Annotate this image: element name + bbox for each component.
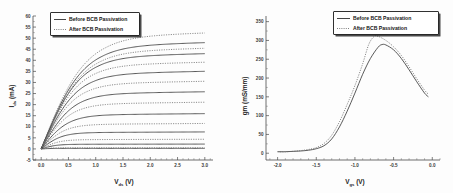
left-curve-after	[41, 33, 205, 149]
left-curve-before	[41, 114, 205, 149]
left-curve-after	[41, 123, 205, 148]
y-tick-label: 0	[28, 147, 31, 152]
right-curve-before	[277, 44, 428, 151]
left-curve-before	[41, 148, 205, 149]
left-legend-label-after: After BCB Passivation	[69, 26, 123, 32]
y-tick-label: 5	[28, 136, 31, 141]
left-curve-before	[41, 92, 205, 149]
right-legend-label-after: After BCB Passivation	[353, 25, 407, 31]
y-tick-label: 0	[260, 151, 263, 156]
x-tick-label: 0.0	[38, 163, 45, 168]
x-tick-label: -1.0	[350, 163, 358, 168]
left-ylabel-unit: (mA)	[8, 84, 16, 100]
x-tick-label: 0.5	[65, 163, 72, 168]
y-tick-label: 10	[25, 124, 31, 129]
y-tick-label: 35	[25, 69, 31, 74]
right-y-axis-title: gm (mS/mm)	[241, 77, 249, 116]
right-ylabel: gm (mS/mm)	[241, 77, 249, 116]
right-curve-after	[277, 36, 428, 152]
y-tick-label: 60	[25, 14, 31, 19]
y-tick-label: 300	[255, 38, 263, 43]
left-chart-panel: -50510152025303540455055600.00.51.01.52.…	[0, 0, 227, 193]
right-legend[interactable]: Before BCB Passivation After BCB Passiva…	[333, 12, 440, 37]
left-legend-label-before: Before BCB Passivation	[69, 16, 127, 22]
y-tick-label: 45	[25, 47, 31, 52]
x-tick-label: 3.0	[202, 163, 209, 168]
x-tick-label: -1.5	[312, 163, 320, 168]
left-curve-before	[41, 132, 205, 149]
x-tick-label: 1.0	[93, 163, 100, 168]
y-tick-label: 50	[258, 132, 264, 137]
x-tick-label: -0.5	[389, 163, 397, 168]
x-tick-label: -2.0	[273, 163, 281, 168]
right-xlabel-unit: (V)	[354, 178, 364, 186]
left-x-axis-title: Vds (V)	[114, 178, 133, 187]
y-tick-label: 20	[25, 102, 31, 107]
svg-text:Vds (V): Vds (V)	[114, 178, 133, 187]
right-curves	[277, 36, 428, 152]
left-curves	[41, 33, 205, 149]
left-curve-after	[41, 102, 205, 149]
x-tick-label: 0.0	[429, 163, 436, 168]
y-tick-label: 50	[25, 36, 31, 41]
y-tick-label: -5	[26, 158, 31, 163]
left-y-axis-title: Ids (mA)	[8, 84, 17, 107]
right-chart-svg: 050100150200250300350-2.0-1.5-1.0-0.50.0…	[227, 0, 453, 193]
right-chart-panel: 050100150200250300350-2.0-1.5-1.0-0.50.0…	[227, 0, 453, 193]
figure-root: -50510152025303540455055600.00.51.01.52.…	[0, 0, 453, 193]
y-tick-label: 350	[255, 19, 263, 24]
right-tick-labels: 050100150200250300350-2.0-1.5-1.0-0.50.0	[255, 19, 435, 168]
y-tick-label: 25	[25, 91, 31, 96]
svg-text:Vgs (V): Vgs (V)	[345, 178, 364, 187]
right-x-axis-title: Vgs (V)	[345, 178, 364, 187]
left-chart-svg: -50510152025303540455055600.00.51.01.52.…	[0, 0, 227, 193]
y-tick-label: 250	[255, 57, 263, 62]
y-tick-label: 100	[255, 113, 263, 118]
right-legend-label-before: Before BCB Passivation	[353, 15, 411, 21]
left-xlabel-unit: (V)	[123, 178, 133, 186]
y-tick-label: 200	[255, 76, 263, 81]
svg-text:Ids (mA): Ids (mA)	[8, 84, 17, 107]
x-tick-label: 2.0	[147, 163, 154, 168]
left-curve-after	[41, 62, 205, 149]
x-tick-label: 1.5	[120, 163, 127, 168]
right-axes	[266, 16, 440, 160]
y-tick-label: 15	[25, 113, 31, 118]
y-tick-label: 40	[25, 58, 31, 63]
y-tick-label: 55	[25, 25, 31, 30]
y-tick-label: 30	[25, 80, 31, 85]
left-axes	[33, 16, 213, 160]
x-tick-label: 2.5	[174, 163, 181, 168]
left-legend[interactable]: Before BCB Passivation After BCB Passiva…	[51, 13, 142, 38]
left-curve-before	[41, 71, 205, 149]
y-tick-label: 150	[255, 95, 263, 100]
